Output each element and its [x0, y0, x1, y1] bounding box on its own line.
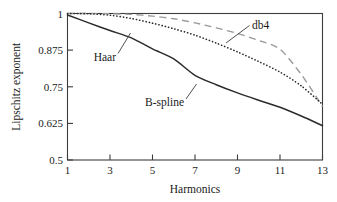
x-tick-label-7: 7 [192, 164, 198, 176]
x-tick-label-5: 5 [150, 164, 156, 176]
y-axis-title: Lipschitz exponent [10, 42, 23, 131]
y-tick-label-0625: 0.625 [38, 117, 63, 129]
y-tick-label-05: 0.5 [49, 154, 63, 166]
y-tick-label-1: 1 [58, 8, 64, 20]
series-line-b-spline [68, 15, 323, 126]
chart-figure: 1 0.875 0.75 0.625 0.5 1 3 5 7 9 11 13 H… [0, 0, 337, 202]
x-axis-title: Harmonics [170, 183, 221, 195]
series-label-db4: db4 [252, 19, 270, 31]
series-label-haar: Haar [94, 51, 117, 63]
x-tick-label-3: 3 [107, 164, 113, 176]
x-tick-label-1: 1 [65, 164, 71, 176]
x-axis-ticks [68, 155, 323, 161]
x-tick-label-13: 13 [317, 164, 329, 176]
leader-line-haar [118, 33, 131, 54]
y-tick-label-075: 0.75 [44, 81, 64, 93]
x-tick-label-9: 9 [235, 164, 241, 176]
y-axis-ticks [68, 14, 74, 161]
leader-line-b-spline [186, 84, 197, 99]
lipschitz-exponent-line-chart: 1 0.875 0.75 0.625 0.5 1 3 5 7 9 11 13 H… [0, 0, 337, 202]
y-tick-label-0875: 0.875 [38, 44, 63, 56]
series-label-b-spline: B-spline [145, 96, 184, 109]
leader-line-db4 [226, 26, 250, 44]
x-tick-label-11: 11 [275, 164, 286, 176]
